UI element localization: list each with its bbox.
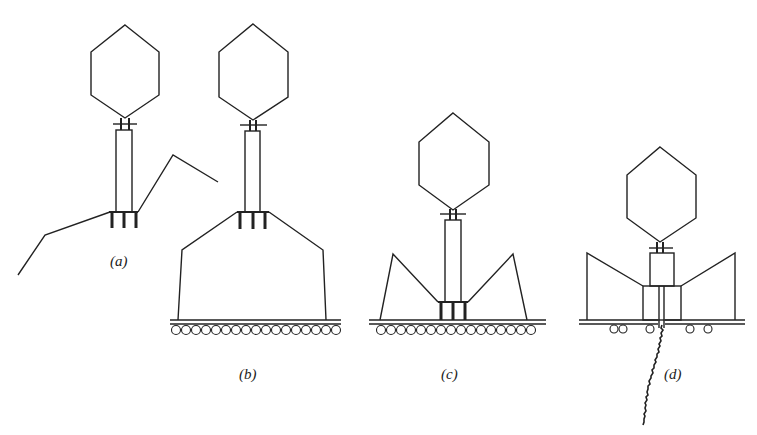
phage-diagram [0, 0, 757, 435]
phage-b-cell-wall [170, 320, 341, 324]
phage-d [579, 147, 745, 425]
phage-c-head [419, 113, 489, 210]
phage-d-contracted-sheath [650, 253, 674, 286]
panel-label-b: (b) [239, 366, 257, 383]
phage-a-tail-fiber-right [138, 155, 218, 212]
phage-d-tail-fiber-left [587, 253, 643, 320]
phage-c-tail [445, 220, 461, 302]
phage-b-tail [245, 131, 260, 212]
phage-b-collar [240, 120, 267, 131]
phage-c-baseplate [438, 302, 468, 320]
phage-b [170, 24, 341, 335]
phage-d-head [627, 147, 696, 242]
phage-b-tail-fiber-left [178, 212, 237, 320]
phage-c-membrane-beads [377, 326, 536, 335]
phage-a-collar [113, 118, 137, 130]
phage-a [18, 25, 218, 275]
panel-label-a: (a) [110, 253, 128, 270]
phage-d-collar [649, 242, 673, 253]
phage-c-tail-fiber-right [468, 254, 527, 320]
phage-b-tail-fiber-right [269, 212, 326, 320]
phage-d-injected-dna [643, 325, 663, 425]
phage-a-tail-fiber-left [18, 212, 110, 275]
phage-b-head [219, 24, 288, 120]
phage-d-tail-fiber-right [681, 253, 735, 320]
phage-b-baseplate [237, 212, 269, 229]
phage-b-membrane-beads [172, 326, 341, 335]
phage-a-baseplate [109, 212, 138, 228]
panel-label-c: (c) [441, 366, 458, 383]
phage-a-tail [116, 130, 132, 212]
phage-c-tail-fiber-left [380, 254, 438, 320]
phage-c [369, 113, 546, 335]
phage-a-head [91, 25, 159, 118]
phage-d-baseplate-block [643, 286, 681, 320]
panel-label-d: (d) [664, 366, 682, 383]
phage-c-cell-wall [369, 320, 546, 324]
phage-d-tail-core [659, 286, 664, 328]
